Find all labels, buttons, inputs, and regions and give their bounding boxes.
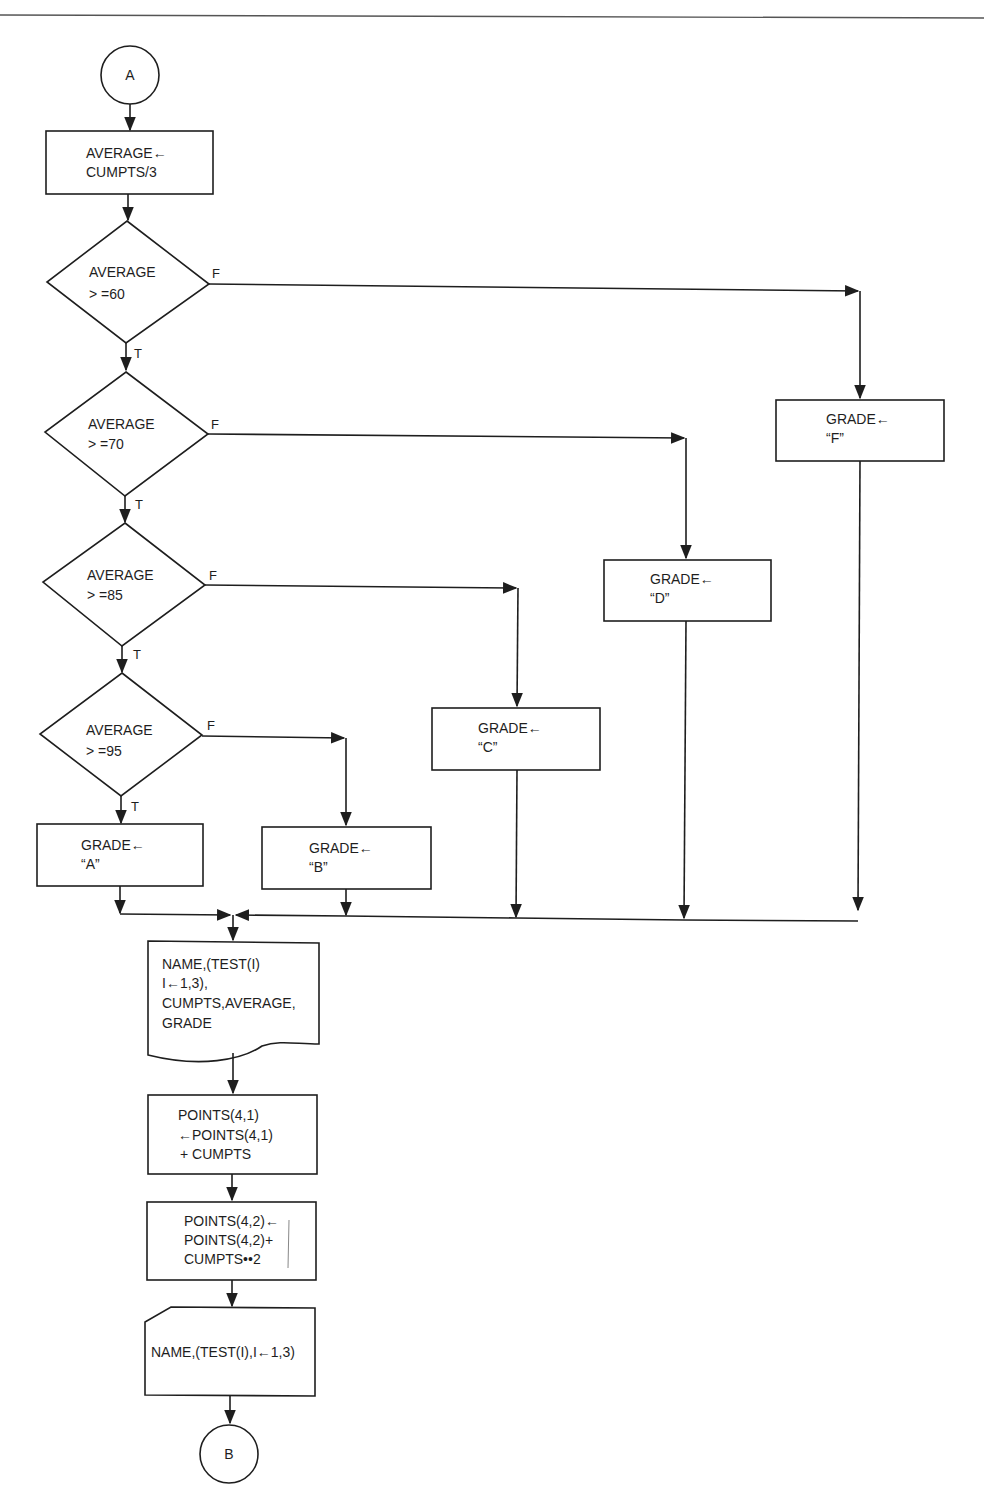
decision-85-true-label: T xyxy=(133,647,141,662)
decision-60-line1: AVERAGE xyxy=(89,264,156,280)
decision-average-70: AVERAGE > =70 F T xyxy=(45,372,219,512)
grade-b-line1: GRADE← xyxy=(309,840,373,856)
grade-f-line1: GRADE← xyxy=(826,411,890,427)
decision-average-60: AVERAGE > =60 F T xyxy=(47,221,220,361)
process-grade-d: GRADE← “D” xyxy=(604,560,771,621)
input-card-line1: NAME,(TEST(I),I←1,3) xyxy=(151,1344,295,1360)
input-card: NAME,(TEST(I),I←1,3) xyxy=(145,1307,315,1396)
decision-95-true-label: T xyxy=(131,799,139,814)
process-grade-a: GRADE← “A” xyxy=(37,824,203,886)
points1-line2: ←POINTS(4,1) xyxy=(178,1127,273,1143)
points2-line1: POINTS(4,2)← xyxy=(184,1213,279,1229)
decision-85-line2: > =85 xyxy=(87,587,123,603)
false-branch-85 xyxy=(205,585,516,588)
process-points-4-2: POINTS(4,2)← POINTS(4,2)+ CUMPTS••2 xyxy=(147,1202,316,1280)
false-branch-95 xyxy=(202,736,344,738)
header-rule xyxy=(0,15,984,18)
process-points-4-1: POINTS(4,1) ←POINTS(4,1) + CUMPTS xyxy=(148,1095,317,1174)
output-line4: GRADE xyxy=(162,1015,212,1031)
flow-arrow xyxy=(516,770,517,917)
grade-a-line1: GRADE← xyxy=(81,837,145,853)
decision-70-line1: AVERAGE xyxy=(88,416,155,432)
output-line2: I←1,3), xyxy=(162,975,208,991)
grade-d-line1: GRADE← xyxy=(650,571,714,587)
grade-c-line2: “C” xyxy=(478,739,498,755)
decision-70-false-label: F xyxy=(211,417,219,432)
process-grade-c: GRADE← “C” xyxy=(432,708,600,770)
false-branch-70 xyxy=(208,434,684,438)
decision-95-false-label: F xyxy=(207,718,215,733)
decision-60-true-label: T xyxy=(134,346,142,361)
flow-arrow xyxy=(684,621,686,918)
decision-60-false-label: F xyxy=(212,266,220,281)
merge-line-left xyxy=(120,914,230,915)
end-connector-b: B xyxy=(200,1425,258,1483)
flow-arrow xyxy=(858,461,860,910)
output-line3: CUMPTS,AVERAGE, xyxy=(162,995,296,1011)
decision-85-false-label: F xyxy=(209,568,217,583)
connector-b-label: B xyxy=(224,1446,233,1462)
process-average-line1: AVERAGE← xyxy=(86,145,167,161)
decision-85-line1: AVERAGE xyxy=(87,567,154,583)
flow-arrow xyxy=(517,588,518,706)
process-average-line2: CUMPTS/3 xyxy=(86,164,157,180)
grade-d-line2: “D” xyxy=(650,590,670,606)
decision-95-line2: > =95 xyxy=(86,743,122,759)
output-document: NAME,(TEST(I) I←1,3), CUMPTS,AVERAGE, GR… xyxy=(148,941,319,1062)
decision-average-95: AVERAGE > =95 F T xyxy=(40,673,215,814)
grade-b-line2: “B” xyxy=(309,859,328,875)
merge-line-right xyxy=(236,915,858,921)
decision-60-line2: > =60 xyxy=(89,286,125,302)
decision-70-line2: > =70 xyxy=(88,436,124,452)
points2-line2: POINTS(4,2)+ xyxy=(184,1232,273,1248)
decision-95-line1: AVERAGE xyxy=(86,722,153,738)
false-branch-60 xyxy=(209,284,858,291)
connector-a-label: A xyxy=(125,67,135,83)
grade-c-line1: GRADE← xyxy=(478,720,542,736)
points2-line3: CUMPTS••2 xyxy=(184,1251,261,1267)
flowchart-canvas: A AVERAGE← CUMPTS/3 AVERAGE > =60 F T GR… xyxy=(0,0,984,1501)
grade-a-line2: “A” xyxy=(81,856,100,872)
process-grade-f: GRADE← “F” xyxy=(776,400,944,461)
output-line1: NAME,(TEST(I) xyxy=(162,956,260,972)
grade-f-line2: “F” xyxy=(826,430,844,446)
points1-line3: + CUMPTS xyxy=(180,1146,251,1162)
decision-average-85: AVERAGE > =85 F T xyxy=(43,523,217,662)
start-connector-a: A xyxy=(101,46,159,104)
process-average: AVERAGE← CUMPTS/3 xyxy=(46,131,213,194)
decision-70-true-label: T xyxy=(135,497,143,512)
points1-line1: POINTS(4,1) xyxy=(178,1107,259,1123)
process-grade-b: GRADE← “B” xyxy=(262,827,431,889)
